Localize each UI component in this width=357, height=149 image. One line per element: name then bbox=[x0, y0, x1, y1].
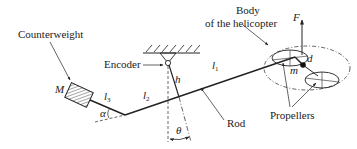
alpha-symbol: α bbox=[100, 107, 106, 119]
mass-M-symbol: M bbox=[54, 83, 65, 95]
propeller-leader-left bbox=[283, 63, 290, 107]
h-symbol: h bbox=[175, 73, 181, 85]
theta-symbol: θ bbox=[176, 124, 182, 136]
l3-symbol: l3 bbox=[104, 90, 111, 104]
body-label-line2: of the helicopter bbox=[205, 17, 277, 29]
l1-symbol: l1 bbox=[212, 59, 219, 73]
counterweight-label: Counterweight bbox=[18, 28, 83, 40]
propellers-label: Propellers bbox=[270, 109, 315, 121]
helicopter-diagram: Counterweight Encoder Body of the helico… bbox=[0, 0, 357, 149]
force-F-symbol: F bbox=[292, 11, 300, 23]
l2-symbol: l2 bbox=[143, 89, 150, 103]
body-label-line1: Body bbox=[236, 4, 260, 16]
counterweight-block bbox=[65, 83, 94, 108]
theta-arc bbox=[170, 137, 189, 140]
ceiling-support bbox=[143, 45, 200, 63]
rod-label: Rod bbox=[227, 117, 246, 129]
propeller-leader-right bbox=[292, 83, 316, 107]
d-symbol: d bbox=[307, 52, 313, 64]
mass-point-icon bbox=[300, 62, 306, 68]
alpha-arc bbox=[108, 108, 110, 118]
right-propeller-icon bbox=[305, 72, 339, 88]
rod-main bbox=[125, 57, 295, 115]
encoder-label: Encoder bbox=[104, 58, 141, 70]
encoder-pivot-icon bbox=[165, 60, 170, 65]
rod-leader bbox=[201, 88, 224, 120]
m-symbol: m bbox=[290, 64, 298, 76]
counterweight-leader bbox=[50, 42, 70, 80]
